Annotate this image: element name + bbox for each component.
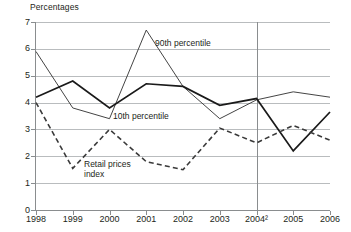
series-line-2 [36, 81, 330, 151]
chart-container: Percentages 01234567 1998199920002001200… [0, 0, 351, 232]
gridline [36, 103, 330, 104]
gridline [36, 49, 330, 50]
y-axis-tick-label: 2 [14, 152, 30, 161]
vertical-divider-2004 [257, 22, 258, 211]
gridline [36, 22, 330, 23]
gridline [36, 76, 330, 77]
chart-title: Percentages [30, 2, 79, 12]
series-lines-layer [0, 0, 351, 232]
gridline [36, 183, 330, 184]
y-axis-line [35, 22, 36, 211]
y-axis-tick-label: 7 [14, 18, 30, 27]
gridline [36, 129, 330, 130]
annotation-retail-prices-index: Retail prices index [84, 160, 146, 179]
series-line-3 [36, 103, 330, 170]
gridline [36, 156, 330, 157]
x-axis-tick-label: 2006 [308, 215, 351, 224]
y-axis-tick-label: 5 [14, 71, 30, 80]
y-axis-tick-label: 4 [14, 98, 30, 107]
annotation-90th-percentile: 90th percentile [155, 39, 211, 49]
x-axis-line [36, 210, 330, 211]
y-axis-tick-label: 6 [14, 44, 30, 53]
annotation-10th-percentile: 10th percentile [113, 112, 169, 122]
y-axis-tick-label: 1 [14, 179, 30, 188]
y-axis-tick-label: 3 [14, 125, 30, 134]
